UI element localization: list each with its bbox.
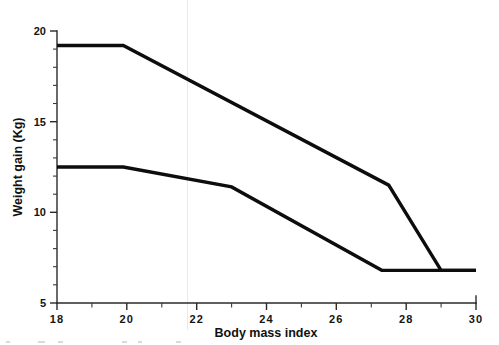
upper-band-line: [57, 46, 476, 271]
x-tick-label: 26: [329, 313, 344, 325]
x-tick-labels: 18 20 22 24 26 28 30: [50, 313, 484, 325]
y-axis-ticks: [50, 31, 57, 303]
x-tick-label: 22: [189, 313, 204, 325]
weight-gain-vs-bmi-chart: 20 15 10 5 18 20 22 24 26 28 30 Body mas…: [0, 0, 499, 345]
y-tick-label: 10: [34, 206, 46, 218]
x-tick-label: 24: [259, 313, 274, 325]
x-tick-label: 30: [469, 313, 484, 325]
chart-canvas: 20 15 10 5 18 20 22 24 26 28 30 Body mas…: [0, 0, 499, 345]
y-tick-label: 15: [34, 116, 46, 128]
y-axis-title: Weight gain (Kg): [11, 117, 25, 216]
y-tick-label: 20: [34, 25, 46, 37]
x-tick-label: 28: [399, 313, 414, 325]
edge-artifacts: [6, 341, 181, 343]
x-axis-title: Body mass index: [215, 326, 318, 340]
lower-band-line: [57, 167, 476, 270]
x-tick-label: 20: [119, 313, 134, 325]
y-tick-labels: 20 15 10 5: [34, 25, 46, 309]
y-tick-label: 5: [40, 297, 46, 309]
x-axis-ticks: [57, 303, 476, 310]
x-tick-label: 18: [50, 313, 65, 325]
